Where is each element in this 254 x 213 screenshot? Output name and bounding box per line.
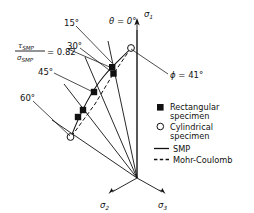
leader-45 — [54, 73, 93, 92]
friction-angle-label: ϕ = 41° — [170, 70, 203, 80]
legend-label-mohr-coulomb: Mohr-Coulomb — [173, 155, 232, 165]
theta-0-label: θ = 0° — [109, 16, 136, 26]
ratio-denominator: σSMP — [17, 54, 34, 63]
leader-60 — [33, 101, 70, 136]
rectangular-specimen-points — [75, 64, 117, 120]
data-point-rect — [75, 114, 81, 120]
ratio-value: = 0.82 — [47, 47, 76, 57]
theta-45-label: 45° — [38, 67, 53, 77]
ray-theta-45 — [64, 84, 137, 178]
data-point-rect — [80, 107, 86, 113]
legend-marker-filled-square — [157, 104, 164, 111]
ratio-numerator: τSMP — [18, 42, 35, 51]
cylindrical-specimen-points — [67, 45, 134, 141]
legend: Rectangular specimen Cylindrical specime… — [154, 102, 232, 165]
mohr-coulomb-line — [71, 48, 131, 137]
sigma3-label: σ3 — [158, 200, 167, 211]
sigma2-label: σ2 — [100, 200, 109, 211]
failure-criterion-diagram: σ1 σ2 σ3 θ = 0° 15° 30° 45° 60° ϕ = 41° … — [0, 0, 254, 213]
theta-60-label: 60° — [20, 93, 35, 103]
sigma1-label: σ1 — [144, 9, 153, 20]
theta-15-label: 15° — [64, 18, 79, 28]
leader-30 — [80, 48, 113, 73]
legend-marker-open-circle — [157, 123, 164, 130]
data-point-rect — [91, 89, 97, 95]
legend-label-smp: SMP — [173, 144, 190, 154]
ray-theta-15 — [108, 41, 137, 178]
legend-label-cylindrical-2: specimen — [170, 131, 209, 141]
sigma3-axis — [137, 178, 166, 194]
legend-label-rectangular-2: specimen — [170, 111, 209, 121]
sigma2-axis — [109, 178, 138, 194]
sigma1-axis — [134, 18, 139, 178]
